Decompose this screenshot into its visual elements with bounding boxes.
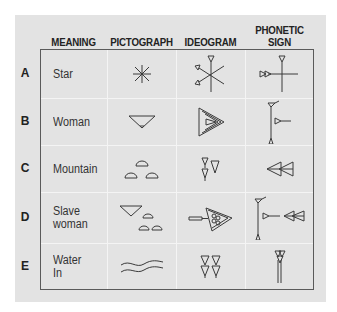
meaning-label: Water In (53, 254, 81, 280)
meaning-label: Star (53, 68, 73, 81)
pictograph-cell (108, 99, 177, 145)
table-row-e: Water In (41, 244, 313, 289)
header-phonetic-sign: PHONETIC SIGN (249, 22, 310, 48)
triangle-and-mounds-icon (119, 204, 165, 232)
mountain-wedges-icon (200, 156, 222, 182)
an-sign-icon (258, 54, 302, 94)
phonetic-cell (246, 244, 313, 289)
pictograph-cell (108, 146, 177, 192)
pictograph-cell (108, 50, 177, 98)
meaning-label: Woman (53, 116, 90, 129)
slave-woman-phonetic-icon (252, 196, 308, 240)
pictograph-cell (108, 193, 177, 243)
meaning-label: Mountain (53, 163, 97, 176)
table-row-b: Woman (41, 99, 313, 146)
row-letter-d: D (18, 210, 32, 224)
meaning-cell: Woman (41, 99, 108, 145)
three-mounds-icon (123, 158, 161, 180)
star-cuneiform-icon (191, 54, 231, 94)
table-row-a: Star (41, 50, 313, 99)
mountain-phonetic-icon (265, 159, 295, 179)
star-asterisk-icon (130, 63, 154, 85)
header-ideogram: IDEOGRAM (180, 22, 241, 48)
wavy-lines-icon (120, 258, 164, 276)
row-letter-a: A (18, 66, 32, 80)
meaning-cell: Star (41, 50, 108, 98)
ideogram-cell (177, 99, 246, 145)
row-letter-c: C (18, 161, 32, 175)
pictograph-cell (108, 244, 177, 289)
phonetic-cell (246, 50, 313, 98)
row-letter-b: B (18, 114, 32, 128)
ideogram-cell (177, 193, 246, 243)
meaning-cell: Water In (41, 244, 108, 289)
phonetic-cell (246, 99, 313, 145)
meaning-cell: Mountain (41, 146, 108, 192)
water-wedges-icon (200, 255, 222, 279)
row-letter-e: E (18, 259, 32, 273)
cuneiform-evolution-table: Star W (40, 49, 314, 290)
meaning-label: Slave woman (53, 205, 88, 231)
table-row-c: Mountain (41, 146, 313, 193)
woman-phonetic-icon (265, 100, 295, 144)
woman-cuneiform-icon (196, 104, 226, 140)
water-phonetic-icon (273, 250, 287, 284)
meaning-cell: Slave woman (41, 193, 108, 243)
phonetic-cell (246, 146, 313, 192)
pubic-triangle-icon (128, 114, 156, 130)
ideogram-cell (177, 244, 246, 289)
header-meaning: MEANING (44, 22, 103, 48)
header-pictograph: PICTOGRAPH (111, 22, 172, 48)
ideogram-cell (177, 50, 246, 98)
table-row-d: Slave woman (41, 193, 313, 244)
slave-woman-cuneiform-icon (188, 203, 234, 233)
ideogram-cell (177, 146, 246, 192)
phonetic-cell (246, 193, 313, 243)
